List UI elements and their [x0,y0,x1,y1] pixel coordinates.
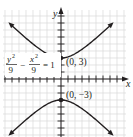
x-axis-label: x [125,78,131,89]
eq-den-left: 9 [9,65,14,75]
eq-exp-left: 2 [12,53,15,59]
eq-equals: = 1 [43,60,55,70]
eq-num-right: x [29,54,34,64]
hyperbola-graph: y x (0, 3) (0, −3) y 2 9 − x 2 9 = 1 [0,0,133,137]
vertex-label-bottom: (0, −3) [66,90,92,101]
eq-den-right: 9 [32,65,37,75]
eq-num-left: y [6,54,11,64]
equation-label: y 2 9 − x 2 9 = 1 [5,53,61,77]
y-axis-arrow-icon [59,7,64,14]
vertex-label-top: (0, 3) [66,57,87,68]
eq-minus: − [20,60,25,70]
vertex-point-bottom [59,98,64,103]
y-axis-label: y [52,8,58,19]
eq-exp-right: 2 [35,53,38,59]
